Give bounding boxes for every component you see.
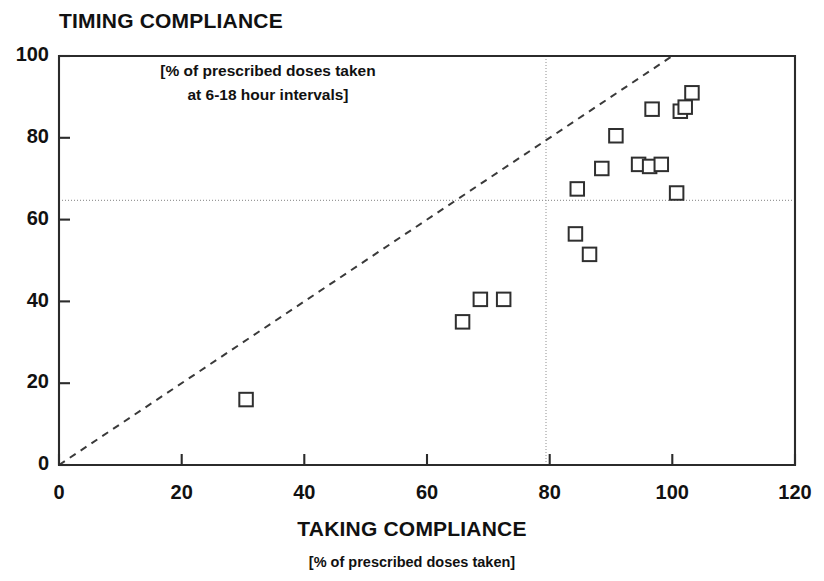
data-point-marker	[595, 162, 609, 176]
data-point-marker	[670, 186, 684, 200]
data-point-marker	[678, 100, 692, 114]
data-point-marker	[571, 182, 585, 196]
scatter-plot-svg: TIMING COMPLIANCE [% of prescribed doses…	[0, 0, 824, 581]
data-point-marker	[583, 248, 597, 261]
data-point-marker	[655, 158, 669, 172]
chart-title: TIMING COMPLIANCE	[59, 9, 283, 32]
y-tick-label: 100	[16, 43, 49, 65]
x-tick-label: 0	[53, 481, 64, 503]
data-point-marker	[239, 393, 253, 407]
x-tick-label: 120	[778, 481, 811, 503]
data-point-marker	[497, 293, 511, 307]
data-point-marker	[645, 102, 659, 116]
y-tick-label: 80	[27, 125, 49, 147]
x-tick-label: 80	[539, 481, 561, 503]
y-tick-label: 60	[27, 207, 49, 229]
x-axis-subtitle: [% of prescribed doses taken]	[309, 554, 515, 570]
data-point-marker	[474, 293, 488, 307]
x-tick-label: 60	[416, 481, 438, 503]
chart-subtitle-line2: at 6-18 hour intervals]	[187, 86, 348, 103]
x-tick-label: 100	[656, 481, 689, 503]
chart-figure: TIMING COMPLIANCE [% of prescribed doses…	[0, 0, 824, 581]
y-tick-label: 0	[38, 452, 49, 474]
y-tick-label: 20	[27, 370, 49, 392]
data-point-marker	[456, 315, 470, 329]
figure-background	[0, 0, 824, 581]
data-point-marker	[685, 86, 699, 100]
x-tick-label: 40	[293, 481, 315, 503]
chart-subtitle-line1: [% of prescribed doses taken	[160, 62, 375, 79]
data-point-marker	[569, 227, 583, 241]
y-tick-label: 40	[27, 289, 49, 311]
data-point-marker	[609, 129, 623, 143]
x-tick-label: 20	[171, 481, 193, 503]
x-axis-title: TAKING COMPLIANCE	[297, 517, 526, 540]
